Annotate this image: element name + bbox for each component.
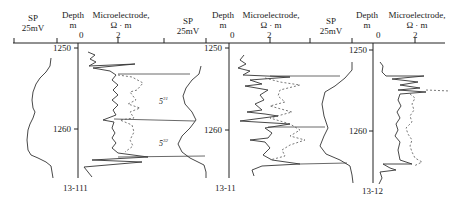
sp-label: SP xyxy=(13,13,53,23)
well1-micro-solid xyxy=(84,52,148,177)
sp-scale-label: 25mV xyxy=(313,26,349,36)
micro-unit-label: Ω · m xyxy=(384,20,450,30)
depth-label: Depth xyxy=(58,10,88,20)
sp-header-3: SP 25mV xyxy=(313,16,349,36)
well1-micro-dashed xyxy=(118,75,143,152)
well1-sp-curve xyxy=(27,58,53,178)
micro-tick-2: 2 xyxy=(413,30,418,40)
micro-tick-0: 0 xyxy=(230,30,235,40)
depth-tick-1250: 1250 xyxy=(53,43,71,53)
depth-label: Depth xyxy=(208,10,238,20)
sp-label: SP xyxy=(313,16,349,26)
micro-header-3: Microelectrode, Ω · m xyxy=(384,10,450,30)
depth-unit-label: m xyxy=(352,20,382,30)
well-label-13-12: 13-12 xyxy=(362,186,383,196)
well3-micro-dashed xyxy=(406,90,450,166)
micro-unit-label: Ω · m xyxy=(88,20,154,30)
depth-header-2: Depth m xyxy=(208,10,238,30)
depth-tick-1250: 1250 xyxy=(204,43,222,53)
sp-scale-label: 25mV xyxy=(13,23,53,33)
depth-unit-label: m xyxy=(58,20,88,30)
sp-label: SP xyxy=(170,16,206,26)
sp-scale-label: 25mV xyxy=(170,26,206,36)
well3-micro-solid xyxy=(379,62,426,184)
depth-header-3: Depth m xyxy=(352,10,382,30)
micro-label: Microelectrode, xyxy=(88,10,154,20)
depth-tick-1260: 1260 xyxy=(53,124,71,134)
sp-header-2: SP 25mV xyxy=(170,16,206,36)
micro-tick-0: 0 xyxy=(79,30,84,40)
micro-unit-label: Ω · m xyxy=(238,20,304,30)
depth-axes xyxy=(74,43,373,183)
depth-tick-1260: 1260 xyxy=(349,126,367,136)
well2-correlation-lines xyxy=(268,76,347,164)
well-label-13-11: 13-11 xyxy=(215,183,236,193)
well-label-13-111: 13-111 xyxy=(63,183,88,193)
layer-label-5-32: 532 xyxy=(159,138,168,148)
layer-sup: 32 xyxy=(163,138,168,143)
depth-unit-label: m xyxy=(208,20,238,30)
layer-label-5-31: 531 xyxy=(159,96,168,106)
micro-tick-2: 2 xyxy=(116,30,121,40)
depth-tick-1260: 1260 xyxy=(204,125,222,135)
micro-tick-2: 2 xyxy=(267,30,272,40)
micro-tick-0: 0 xyxy=(376,30,381,40)
micro-label: Microelectrode, xyxy=(238,10,304,20)
depth-label: Depth xyxy=(352,10,382,20)
well2-micro-solid xyxy=(238,55,300,176)
well2-sp-curve xyxy=(320,62,353,183)
well2-micro-dashed xyxy=(265,78,305,160)
depth-header-1: Depth m xyxy=(58,10,88,30)
micro-label: Microelectrode, xyxy=(384,10,450,20)
well1-sp-right xyxy=(178,66,206,178)
sp-header-1: SP 25mV xyxy=(13,13,53,33)
micro-header-2: Microelectrode, Ω · m xyxy=(238,10,304,30)
depth-tick-1250: 1250 xyxy=(349,45,367,55)
layer-sup: 31 xyxy=(163,96,168,101)
micro-header-1: Microelectrode, Ω · m xyxy=(88,10,154,30)
